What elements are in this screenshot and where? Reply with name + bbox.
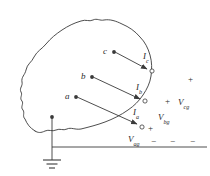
ground-connection [43,115,207,168]
current-subscript-Ib: b [139,89,142,95]
voltage-label-Vag: Vag [128,135,140,146]
current-subscript-Ic: c [146,58,149,64]
voltage-subscript-Vag: ag [134,141,140,147]
open-terminal-a [140,125,144,129]
current-label-Ib: Ib [136,83,142,94]
voltage-symbol-Vcg: V [178,97,184,107]
circuit-diagram-figure: c b a Ic Ib Ia Vcg Vbg Vag + + + − − − [0,0,210,176]
network-blob-outline [20,19,151,132]
polarity-minus-bg: − [170,137,175,146]
open-terminals [140,69,154,129]
terminal-label-b: b [81,72,86,81]
voltage-subscript-Vcg: cg [184,104,190,110]
open-terminal-b [143,99,147,103]
polarity-plus-cg: + [165,97,170,106]
current-label-Ic: Ic [143,52,149,63]
voltage-label-Vbg: Vbg [158,113,170,124]
polarity-plus-cg-top: + [188,75,193,84]
current-label-Ia: Ia [133,108,139,119]
terminal-label-a: a [65,92,70,101]
voltage-symbol-Vag: V [128,134,134,144]
diagram-canvas [0,0,210,176]
voltage-label-Vcg: Vcg [178,98,189,109]
voltage-subscript-Vbg: bg [164,119,170,125]
open-terminal-c [150,69,154,73]
polarity-minus-ag: − [151,137,156,146]
polarity-minus-cg: − [190,137,195,146]
current-lead-b [93,77,140,99]
polarity-plus-bg: + [148,124,153,133]
terminal-label-c: c [103,47,107,56]
voltage-symbol-Vbg: V [158,112,164,122]
current-subscript-Ia: a [136,114,139,120]
